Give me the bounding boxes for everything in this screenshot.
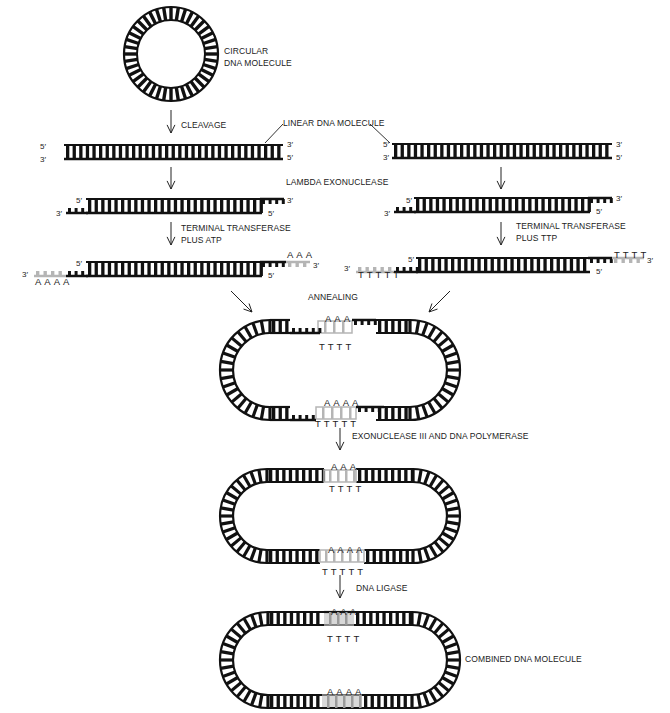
tt-ttp-label-line1: TERMINAL TRANSFERASE	[516, 221, 626, 232]
left-linear-5prime: 5′	[40, 142, 46, 151]
right-end-t-bases: TTTT	[614, 250, 649, 260]
right-tail-t-bases: TTTTT	[358, 270, 402, 280]
exonuclease-arrow	[336, 428, 344, 450]
left-exo-3prime-overhang	[66, 208, 88, 213]
left-exo-3prime: 3′	[56, 209, 62, 218]
right-linear-5prime: 5′	[383, 140, 389, 149]
lambda-arrow-left	[167, 167, 175, 189]
left-exo-dna-duplex	[86, 199, 263, 213]
circular-label-line1: CIRCULAR	[224, 46, 268, 57]
linear-label-leader-left	[265, 124, 283, 143]
right-linear-dna	[392, 144, 612, 158]
right-exo-3prime: 3′	[384, 209, 390, 218]
right-exo-3prime-overhang	[394, 207, 416, 212]
right-exo-3prime-right: 3′	[616, 194, 622, 203]
left-linear-dna	[64, 145, 283, 159]
combined-dna-label: COMBINED DNA MOLECULE	[465, 654, 582, 665]
right-tail-3prime: 3′	[344, 264, 350, 273]
left-tailed-dna-duplex	[86, 262, 263, 276]
right-exo-3prime-overhang-right	[588, 198, 613, 203]
left-linear-3prime: 3′	[40, 155, 46, 164]
right-exo-dna-duplex	[414, 198, 591, 212]
annealing-arrow-right	[429, 291, 450, 312]
tt-atp-label-line1: TERMINAL TRANSFERASE	[181, 223, 291, 234]
right-tailed-overhang-right	[588, 258, 613, 263]
annealing-arrow-left	[231, 291, 252, 312]
right-tailed-dna-duplex	[416, 258, 590, 272]
right-end-a-bases: AAA	[287, 250, 315, 260]
right-exo-5prime: 5′	[406, 196, 412, 205]
ligase-arrow	[336, 575, 344, 598]
tt-ttp-arrow	[497, 222, 505, 245]
left-linear-5prime-right: 5′	[287, 153, 293, 162]
left-exo-3prime-right: 3′	[287, 196, 293, 205]
cleavage-label: CLEAVAGE	[181, 120, 226, 131]
circular-label-line2: DNA MOLECULE	[224, 58, 292, 69]
left-tail-3prime-right: 3′	[313, 261, 319, 270]
right-tail-5prime: 5′	[408, 255, 414, 264]
circular-dna-molecule	[124, 7, 218, 101]
cleavage-arrow	[167, 110, 175, 133]
right-exo-5prime-right: 5′	[596, 207, 602, 216]
right-tail-3prime-right: 3′	[647, 256, 653, 265]
right-tail-5prime-right: 5′	[596, 267, 602, 276]
oval1-bottom-t-bases: TTTTT	[315, 419, 359, 429]
annealing-label: ANNEALING	[308, 292, 358, 303]
annealed-top-left-overhang	[290, 328, 321, 333]
lambda-exonuclease-label: LAMBDA EXONUCLEASE	[286, 177, 388, 188]
oval3-top-t-bases: TTTT	[327, 634, 362, 644]
oval2-bottom-t-bases: TTTTT	[322, 567, 366, 577]
left-tail-a-bases: AAAA	[35, 277, 72, 287]
right-linear-5prime-right: 5′	[616, 153, 622, 162]
lambda-arrow-right	[497, 167, 505, 189]
oval2-top-a-bases: AAA	[331, 462, 359, 472]
oval2-bottom-a-bases: AAAA	[328, 545, 365, 555]
oval1-bottom-a-bases: AAAA	[324, 398, 361, 408]
left-tailed-overhang-right	[260, 262, 286, 267]
oval1-top-a-bases: AAA	[325, 314, 353, 324]
right-linear-3prime: 3′	[383, 153, 389, 162]
oval1-top-t-bases: TTTT	[319, 342, 354, 352]
right-poly-a-tail	[286, 262, 310, 267]
exonuclease-iii-label: EXONUCLEASE III AND DNA POLYMERASE	[352, 431, 529, 442]
linear-dna-label: LINEAR DNA MOLECULE	[283, 118, 385, 129]
right-linear-3prime-right: 3′	[616, 140, 622, 149]
oval3-top-a-bases: AAA	[331, 607, 359, 617]
annealed-bottom-left-overhang	[290, 415, 316, 420]
tt-atp-label-line2: PLUS ATP	[181, 235, 222, 246]
left-exo-5prime-right: 5′	[268, 209, 274, 218]
left-exo-5prime: 5′	[76, 196, 82, 205]
left-tail-5prime: 5′	[76, 259, 82, 268]
left-exo-3prime-overhang-right	[260, 199, 285, 204]
annealed-top-right-overhang	[352, 320, 377, 325]
left-linear-3prime-right: 3′	[287, 140, 293, 149]
left-tail-5prime-right: 5′	[268, 271, 274, 280]
tt-ttp-label-line2: PLUS TTP	[516, 233, 557, 244]
oval2-top-t-bases: TTTT	[329, 484, 364, 494]
left-tail-3prime: 3′	[22, 270, 28, 279]
oval3-bottom-a-bases: AAAA	[327, 687, 364, 697]
tt-atp-arrow	[167, 222, 175, 245]
dna-ligase-label: DNA LIGASE	[356, 583, 408, 594]
